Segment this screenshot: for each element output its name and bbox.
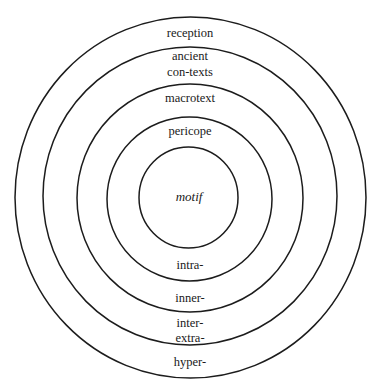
label-reception: reception bbox=[167, 26, 214, 40]
label-extra: extra- bbox=[175, 331, 204, 345]
label-inner: inner- bbox=[175, 291, 205, 305]
label-ancient: ancient bbox=[172, 49, 209, 63]
label-pericope: pericope bbox=[168, 124, 211, 138]
label-macrotext: macrotext bbox=[165, 91, 216, 105]
label-motif: motif bbox=[176, 189, 205, 204]
concentric-context-diagram: reception ancient con-texts macrotext pe… bbox=[0, 0, 376, 387]
label-intra: intra- bbox=[176, 258, 203, 272]
label-con-texts: con-texts bbox=[167, 65, 213, 79]
label-hyper: hyper- bbox=[174, 355, 206, 369]
label-inter: inter- bbox=[177, 316, 204, 330]
